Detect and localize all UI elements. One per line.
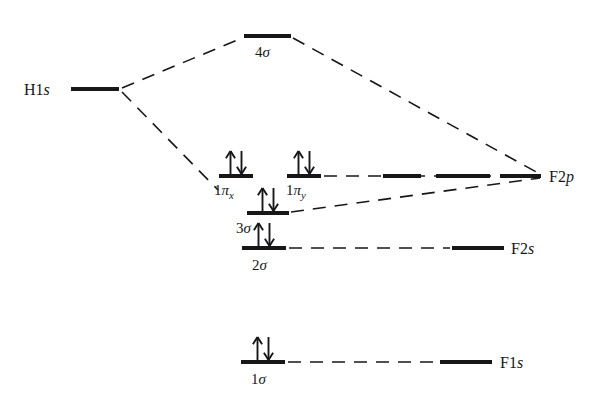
ao-label-orbital: s <box>44 81 50 98</box>
ao-label-main: H1 <box>24 81 44 98</box>
ao-label-orbital: p <box>565 168 574 186</box>
ao-label-h1s: H1s <box>24 81 50 98</box>
mo-label-4sigma: 4σ <box>255 44 271 60</box>
electron-arrow-up-3sigma <box>258 188 267 211</box>
mo-label-1sigma: 1σ <box>251 371 267 387</box>
correlation-lines-group <box>122 38 540 362</box>
ao-label-f1s: F1s <box>500 354 523 371</box>
electron-arrow-down-2sigma <box>265 223 274 246</box>
energy-level-bars-group <box>71 36 541 362</box>
electron-arrow-down-1piy <box>305 151 314 174</box>
mo-label-number: 1 <box>251 371 259 387</box>
mo-label-number: 3 <box>236 220 244 236</box>
ao-label-orbital: s <box>528 240 534 257</box>
correlation-line-3sigma-to-f2p <box>291 178 540 212</box>
mo-label-3sigma: 3σ <box>236 220 252 236</box>
mo-label-symbol: σ <box>260 257 268 273</box>
electron-arrow-up-1sigma <box>253 337 262 360</box>
electron-arrow-up-1piy <box>294 151 303 174</box>
correlation-line-h1s-to-4sigma <box>122 38 242 88</box>
mo-diagram: 4σ1πx1πy3σ2σ1σH1sF2pF2sF1s <box>0 0 603 412</box>
electron-arrow-down-1pix <box>237 151 246 174</box>
level-labels-group: 4σ1πx1πy3σ2σ1σH1sF2pF2sF1s <box>24 44 574 387</box>
mo-diagram-canvas: 4σ1πx1πy3σ2σ1σH1sF2pF2sF1s <box>0 0 603 412</box>
mo-label-symbol: σ <box>263 44 271 60</box>
mo-label-subscript: y <box>300 189 306 201</box>
mo-label-1pix: 1πx <box>214 182 234 201</box>
mo-label-symbol: σ <box>244 220 252 236</box>
mo-label-number: 2 <box>252 257 260 273</box>
electron-arrow-down-3sigma <box>269 188 278 211</box>
mo-label-1piy: 1πy <box>286 182 306 201</box>
mo-label-number: 1 <box>214 182 222 198</box>
correlation-line-h1s-to-1pix <box>122 92 218 190</box>
electron-arrow-up-1pix <box>226 151 235 174</box>
electron-arrow-down-1sigma <box>264 337 273 360</box>
ao-label-f2s: F2s <box>511 240 534 257</box>
ao-label-main: F2 <box>511 240 528 257</box>
ao-label-f2p: F2p <box>549 168 574 186</box>
mo-label-symbol: σ <box>259 371 267 387</box>
electron-arrow-up-2sigma <box>254 223 263 246</box>
mo-label-number: 1 <box>286 182 294 198</box>
ao-label-main: F2 <box>549 168 566 185</box>
mo-label-2sigma: 2σ <box>252 257 268 273</box>
correlation-line-4sigma-to-f2p <box>293 38 540 174</box>
ao-label-orbital: s <box>517 354 523 371</box>
mo-label-subscript: x <box>228 189 234 201</box>
ao-label-main: F1 <box>500 354 517 371</box>
